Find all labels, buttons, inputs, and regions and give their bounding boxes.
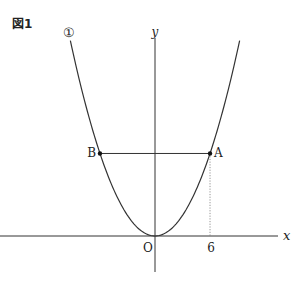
point-a-label: A — [213, 146, 223, 160]
curve-label: ① — [63, 25, 75, 40]
point-b — [98, 151, 102, 155]
parabola-diagram: ① y x O 6 A B — [0, 0, 308, 289]
y-axis-label: y — [151, 25, 159, 39]
x-axis-label: x — [283, 228, 291, 243]
x-tick-label-6: 6 — [207, 241, 215, 255]
point-a — [208, 151, 212, 155]
origin-label: O — [143, 241, 153, 255]
point-b-label: B — [87, 146, 96, 160]
